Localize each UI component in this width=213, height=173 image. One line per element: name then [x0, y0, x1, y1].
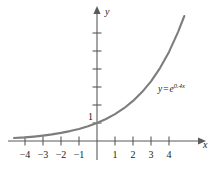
y-axis-arrowhead	[93, 6, 100, 14]
y-intercept-label: 1	[86, 112, 95, 122]
x-tick-label--1: −1	[71, 150, 87, 160]
x-tick-label-4: 4	[162, 150, 176, 160]
x-tick-label-1: 1	[108, 150, 122, 160]
equation-operator: =	[162, 84, 169, 94]
x-axis-label: x	[203, 140, 207, 150]
equation-exponent: 0.4x	[174, 82, 185, 89]
x-tick-label-2: 2	[126, 150, 140, 160]
x-tick-label-3: 3	[144, 150, 158, 160]
exponential-curve	[14, 16, 184, 138]
y-axis-label: y	[105, 7, 109, 17]
x-tick-label--3: −3	[35, 150, 51, 160]
exponential-function-graph: −4 −3 −2 −1 1 2 3 4 1 x y y=e0.4x	[0, 0, 213, 173]
x-tick-label--2: −2	[53, 150, 69, 160]
x-tick-label--4: −4	[17, 150, 33, 160]
curve-equation-label: y=e0.4x	[158, 85, 185, 95]
